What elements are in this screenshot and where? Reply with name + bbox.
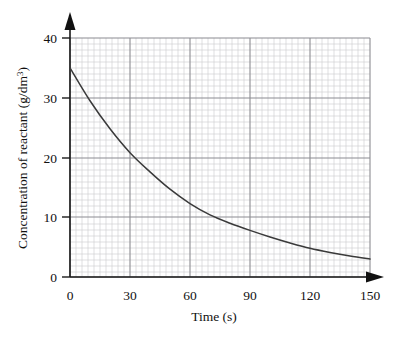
- x-tick-label-0: 0: [67, 288, 74, 303]
- x-tick-label-60: 60: [183, 288, 197, 303]
- x-axis-title: Time (s): [191, 309, 237, 324]
- y-axis-title-close: ): [15, 67, 30, 72]
- svg-text:Concentration of reactant (g/d: Concentration of reactant (g/dm3): [15, 67, 31, 249]
- y-tick-label-0: 0: [50, 270, 57, 285]
- y-tick-label-20: 20: [44, 151, 58, 166]
- y-tick-label-10: 10: [44, 210, 58, 225]
- chart-container: 40 30 20 10 0 0 30 60 90 120 150 Time (s…: [0, 0, 408, 340]
- x-tick-label-120: 120: [300, 288, 321, 303]
- x-tick-label-150: 150: [360, 288, 381, 303]
- y-axis-title: Concentration of reactant (g/dm3): [15, 67, 31, 249]
- y-axis-title-base: Concentration of reactant (g/dm: [15, 76, 30, 249]
- y-tick-label-40: 40: [44, 31, 58, 46]
- concentration-time-chart: 40 30 20 10 0 0 30 60 90 120 150 Time (s…: [0, 0, 408, 340]
- y-tick-label-30: 30: [44, 91, 58, 106]
- x-tick-label-90: 90: [243, 288, 257, 303]
- x-tick-label-30: 30: [123, 288, 137, 303]
